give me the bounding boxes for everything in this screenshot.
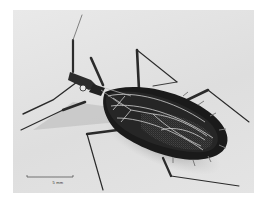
eye [80, 85, 86, 91]
scale-bar [27, 175, 73, 177]
insect-illustration [13, 10, 254, 193]
body [101, 87, 228, 166]
caption-strip [0, 194, 268, 202]
antennae [73, 15, 103, 85]
illustration-plate: 5 mm [13, 10, 254, 193]
scale-bar-label: 5 mm [43, 180, 73, 185]
